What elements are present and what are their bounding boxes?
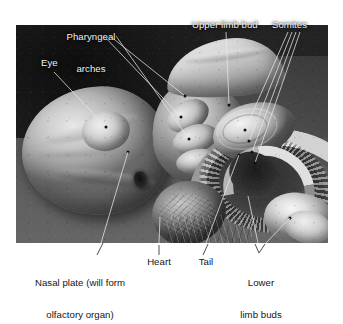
leader-nasal-plate: [97, 243, 103, 255]
label-somites: Somites: [272, 20, 307, 31]
leader-lower-limb-2: [259, 244, 265, 253]
leader-lines-on-light: [97, 243, 265, 255]
label-heart: Heart: [140, 257, 178, 268]
label-tail: Tail: [191, 257, 221, 268]
label-lower-limb-buds-line2: limb buds: [230, 310, 292, 321]
label-upper-limb-bud: Upper limb bud: [192, 20, 258, 31]
leader-lower-limb-1: [255, 244, 259, 253]
label-pharyngeal-arches: Pharyngeal arches: [58, 11, 124, 96]
label-eye: Eye: [41, 58, 58, 69]
label-nasal-plate-line2: olfactory organ): [18, 310, 142, 321]
leader-tail: [203, 244, 208, 255]
label-nasal-plate-line1: Nasal plate (will form: [18, 278, 142, 289]
label-lower-limb-buds: Lower limb buds: [230, 257, 292, 324]
label-nasal-plate: Nasal plate (will form olfactory organ): [18, 257, 142, 324]
label-pharyngeal-arches-line1: Pharyngeal: [58, 32, 124, 43]
label-lower-limb-buds-line1: Lower: [230, 278, 292, 289]
label-pharyngeal-arches-line2: arches: [58, 64, 124, 75]
